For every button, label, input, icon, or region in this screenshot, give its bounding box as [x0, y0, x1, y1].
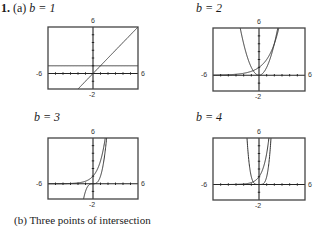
tick-label-xmax: 6: [308, 71, 312, 78]
problem-heading: 1. (a) b = 1: [1, 1, 55, 16]
plot-title-b1: b = 1: [29, 1, 55, 15]
tick-label-xmin: -6: [36, 180, 42, 187]
plot-title-b4-text: b = 4: [196, 110, 222, 124]
tick-label-ymax: 6: [91, 17, 95, 24]
plot-title-b2: b = 2: [196, 1, 222, 16]
tick-label-xmin: -6: [201, 71, 207, 78]
tick-label-xmax: 6: [308, 181, 312, 188]
part-b-answer: (b) Three points of intersection: [14, 214, 151, 226]
plot-title-b2-text: b = 2: [196, 1, 222, 15]
tick-label-xmax: 6: [141, 70, 145, 77]
plot-title-b4: b = 4: [196, 110, 222, 125]
tick-label-ymax: 6: [257, 128, 261, 135]
tick-label-ymin: -2: [255, 202, 261, 209]
tick-label-ymin: -2: [89, 201, 95, 208]
plot-title-b3: b = 3: [34, 110, 60, 125]
part-b-text: Three points of intersection: [29, 214, 150, 226]
tick-label-ymin: -2: [255, 93, 261, 100]
tick-label-xmin: -6: [36, 70, 42, 77]
graph-b4: 6-2-66: [201, 126, 314, 212]
tick-label-ymax: 6: [257, 18, 261, 25]
tick-label-ymin: -2: [89, 91, 95, 98]
part-b-label: (b): [14, 214, 27, 226]
graph-b1: 6-2-66: [36, 15, 150, 101]
graph-b3: 6-2-66: [36, 126, 150, 211]
graph-b2: 6-2-66: [201, 16, 314, 103]
tick-label-ymax: 6: [91, 128, 95, 135]
tick-label-xmax: 6: [141, 180, 145, 187]
problem-number: 1.: [1, 1, 10, 15]
tick-label-xmin: -6: [201, 181, 207, 188]
plot-title-b3-text: b = 3: [34, 110, 60, 124]
part-a-label: (a): [13, 1, 26, 15]
